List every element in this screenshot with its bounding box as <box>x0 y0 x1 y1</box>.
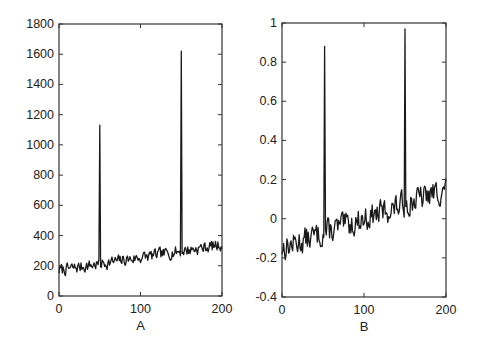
y-tick-label: 0 <box>47 289 54 303</box>
signal-line <box>282 29 446 260</box>
y-tick-label: 0.6 <box>260 94 277 108</box>
y-tick-label: 200 <box>33 259 54 273</box>
chart-canvas: 0200400600800100012001400160018000100200… <box>0 0 480 346</box>
x-tick-label: 100 <box>354 303 375 317</box>
plot-frame <box>282 23 446 297</box>
plot-frame <box>59 24 222 296</box>
y-tick-label: 800 <box>33 168 54 182</box>
y-tick-label: 0.4 <box>260 133 277 147</box>
y-tick-label: -0.2 <box>255 251 277 265</box>
x-tick-label: 0 <box>56 302 63 316</box>
y-tick-label: 1800 <box>26 17 54 31</box>
y-tick-label: 0 <box>270 212 277 226</box>
x-tick-label: 100 <box>130 302 151 316</box>
y-tick-label: 600 <box>33 198 54 212</box>
y-tick-label: 1400 <box>26 77 54 91</box>
y-tick-label: 1200 <box>26 108 54 122</box>
y-tick-label: 1600 <box>26 47 54 61</box>
panel-a: 0200400600800100012001400160018000100200… <box>26 17 232 333</box>
signal-line <box>59 51 222 276</box>
x-tick-label: 200 <box>436 303 457 317</box>
y-tick-label: 1000 <box>26 138 54 152</box>
y-tick-label: 1 <box>270 16 277 30</box>
y-tick-label: -0.4 <box>255 290 277 304</box>
x-tick-label: 200 <box>212 302 233 316</box>
x-tick-label: 0 <box>279 303 286 317</box>
panel-b: -0.4-0.200.20.40.60.810100200B <box>255 16 456 334</box>
x-axis-label: B <box>360 319 369 334</box>
y-tick-label: 400 <box>33 229 54 243</box>
y-tick-label: 0.8 <box>260 55 277 69</box>
y-tick-label: 0.2 <box>260 173 277 187</box>
x-axis-label: A <box>136 318 145 333</box>
figure: 0200400600800100012001400160018000100200… <box>0 0 480 346</box>
